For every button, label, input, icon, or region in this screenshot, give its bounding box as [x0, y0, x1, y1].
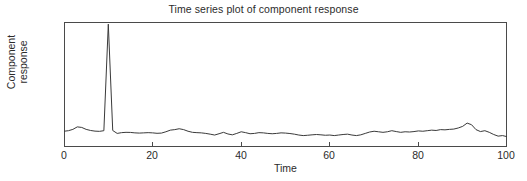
x-axis-label: Time [64, 162, 507, 174]
x-tick-mark-100 [506, 142, 507, 147]
chart-figure: Time series plot of component response C… [0, 0, 527, 181]
x-tick-mark-0 [64, 142, 65, 147]
x-tick-mark-40 [241, 142, 242, 147]
y-axis-label-line-1: Component [5, 12, 17, 112]
series-line-component-response [64, 22, 507, 147]
x-tick-mark-20 [152, 142, 153, 147]
x-tick-label-80: 80 [412, 149, 424, 161]
x-tick-label-0: 0 [61, 149, 67, 161]
x-tick-mark-60 [329, 142, 330, 147]
x-tick-label-100: 100 [497, 149, 515, 161]
y-axis-label-line-2: response [17, 12, 29, 112]
y-axis-label: Component response [5, 12, 29, 112]
plot-area [64, 22, 507, 147]
x-tick-label-60: 60 [323, 149, 335, 161]
x-tick-label-40: 40 [235, 149, 247, 161]
x-tick-label-20: 20 [146, 149, 158, 161]
chart-title: Time series plot of component response [0, 3, 527, 15]
x-tick-mark-80 [418, 142, 419, 147]
